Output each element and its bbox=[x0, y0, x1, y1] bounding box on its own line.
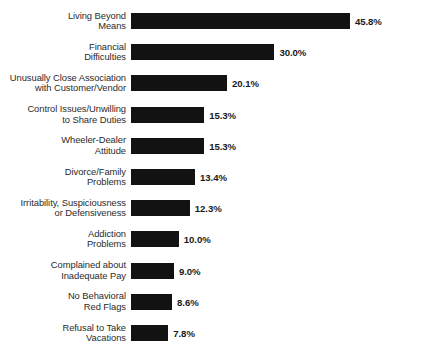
bar-row: Unusually Close Association with Custome… bbox=[0, 75, 421, 91]
bar-track: 20.1% bbox=[131, 75, 421, 91]
bar bbox=[131, 231, 179, 247]
bar-row: Divorce/Family Problems13.4% bbox=[0, 169, 421, 185]
bar-track: 15.3% bbox=[131, 107, 421, 123]
bar-value-label: 13.4% bbox=[200, 172, 227, 183]
category-label: Irritability, Suspiciousness or Defensiv… bbox=[0, 198, 131, 219]
bar-value-label: 15.3% bbox=[209, 140, 236, 151]
bar-track: 12.3% bbox=[131, 200, 421, 216]
bar bbox=[131, 263, 174, 279]
category-label: Addiction Problems bbox=[0, 229, 131, 250]
bar-row: No Behavioral Red Flags8.6% bbox=[0, 294, 421, 310]
horizontal-bar-chart: Living Beyond Means45.8%Financial Diffic… bbox=[0, 0, 421, 359]
bar-value-label: 10.0% bbox=[184, 234, 211, 245]
category-label: Financial Difficulties bbox=[0, 42, 131, 63]
bar-value-label: 15.3% bbox=[209, 109, 236, 120]
bar bbox=[131, 75, 227, 91]
bar-track: 8.6% bbox=[131, 294, 421, 310]
bar-track: 45.8% bbox=[131, 13, 421, 29]
category-label: No Behavioral Red Flags bbox=[0, 291, 131, 312]
bar-value-label: 45.8% bbox=[355, 16, 382, 27]
category-label: Wheeler-Dealer Attitude bbox=[0, 135, 131, 156]
bar-value-label: 7.8% bbox=[173, 328, 195, 339]
bar bbox=[131, 200, 190, 216]
bar-value-label: 12.3% bbox=[195, 203, 222, 214]
bar-row: Refusal to Take Vacations7.8% bbox=[0, 325, 421, 341]
category-label: Unusually Close Association with Custome… bbox=[0, 73, 131, 94]
bar-row: Irritability, Suspiciousness or Defensiv… bbox=[0, 200, 421, 216]
category-label: Complained about Inadequate Pay bbox=[0, 260, 131, 281]
bar-track: 7.8% bbox=[131, 325, 421, 341]
bar bbox=[131, 138, 204, 154]
bar-row: Living Beyond Means45.8% bbox=[0, 13, 421, 29]
bar-track: 30.0% bbox=[131, 44, 421, 60]
bar-value-label: 8.6% bbox=[177, 296, 199, 307]
bar bbox=[131, 13, 350, 29]
bar-value-label: 30.0% bbox=[279, 47, 306, 58]
bar-track: 15.3% bbox=[131, 138, 421, 154]
bar bbox=[131, 325, 168, 341]
bar-row: Complained about Inadequate Pay9.0% bbox=[0, 263, 421, 279]
bar-row: Control Issues/Unwilling to Share Duties… bbox=[0, 107, 421, 123]
bar-row: Addiction Problems10.0% bbox=[0, 231, 421, 247]
bar-track: 9.0% bbox=[131, 263, 421, 279]
bar bbox=[131, 294, 172, 310]
category-label: Living Beyond Means bbox=[0, 11, 131, 32]
bar-track: 13.4% bbox=[131, 169, 421, 185]
bar-value-label: 9.0% bbox=[179, 265, 201, 276]
bar-value-label: 20.1% bbox=[232, 78, 259, 89]
category-label: Refusal to Take Vacations bbox=[0, 323, 131, 344]
bar-row: Wheeler-Dealer Attitude15.3% bbox=[0, 138, 421, 154]
bar bbox=[131, 107, 204, 123]
bar bbox=[131, 44, 274, 60]
bar bbox=[131, 169, 195, 185]
category-label: Control Issues/Unwilling to Share Duties bbox=[0, 104, 131, 125]
bar-track: 10.0% bbox=[131, 231, 421, 247]
bar-row: Financial Difficulties30.0% bbox=[0, 44, 421, 60]
category-label: Divorce/Family Problems bbox=[0, 167, 131, 188]
